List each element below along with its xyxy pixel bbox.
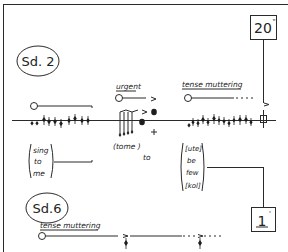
note-cluster-urgent <box>119 109 157 137</box>
svg-text:20: 20 <box>254 20 272 36</box>
timing-box-1-minute: 1 ' <box>252 208 276 232</box>
score-diagram: Sd. 2 20 " urgent <box>0 0 288 252</box>
direction-urgent: urgent <box>116 82 157 114</box>
svg-text:me: me <box>33 169 45 178</box>
svg-text:[ute]: [ute] <box>185 145 202 153</box>
svg-text:': ' <box>269 210 271 218</box>
lyrics-tome-to: (tome ) to <box>113 142 151 162</box>
svg-text:few: few <box>186 169 199 177</box>
phrase-line-left <box>31 103 93 110</box>
section-label-sd6: Sd.6 <box>26 193 68 223</box>
end-note-box <box>261 110 267 128</box>
svg-text:(tome ): (tome ) <box>113 142 141 151</box>
section-label-sd2: Sd. 2 <box>17 46 59 76</box>
timing-box-20-seconds: 20 " <box>251 16 277 104</box>
svg-text:tense muttering: tense muttering <box>40 221 101 230</box>
direction-tense-muttering-top: tense muttering <box>182 80 269 106</box>
svg-text:sing: sing <box>33 146 49 155</box>
svg-text:to: to <box>143 153 151 162</box>
svg-text:Sd.6: Sd.6 <box>33 201 62 216</box>
direction-tense-muttering-bottom: tense muttering <box>39 221 223 249</box>
svg-text:be: be <box>187 157 196 165</box>
svg-text:urgent: urgent <box>116 82 142 91</box>
svg-text:[kol]: [kol] <box>185 182 201 190</box>
svg-text:to: to <box>34 157 42 166</box>
lyrics-ute-be-few-kol: [ute] be few [kol] <box>181 143 264 207</box>
svg-text:": " <box>272 18 275 26</box>
svg-text:Sd. 2: Sd. 2 <box>21 54 54 69</box>
svg-text:tense muttering: tense muttering <box>182 80 243 89</box>
lyrics-sing-to-me: sing to me <box>29 144 92 178</box>
